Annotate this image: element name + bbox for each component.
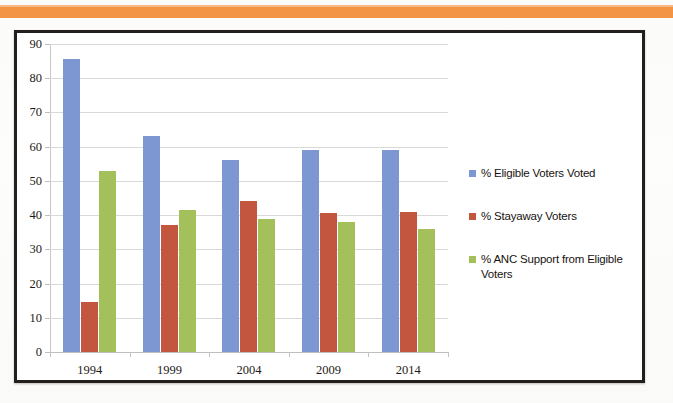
chart-canvas: 0102030405060708090 19941999200420092014…	[17, 33, 642, 380]
orange-banner	[0, 5, 673, 18]
chart-legend: % Eligible Voters Voted% Stayaway Voters…	[469, 166, 635, 310]
bar[interactable]	[400, 212, 417, 352]
bar-group-bars	[368, 44, 448, 352]
y-axis-tick-label: 30	[30, 242, 43, 257]
bar-group: 1994	[50, 44, 130, 352]
banner-highlight	[0, 5, 673, 7]
bar-group: 2014	[368, 44, 448, 352]
x-axis-tick-mark	[209, 352, 210, 357]
y-axis-tick-label: 50	[30, 173, 43, 188]
legend-item-label: % Stayaway Voters	[481, 209, 577, 224]
legend-swatch-icon	[469, 256, 476, 263]
bar[interactable]	[338, 222, 355, 352]
legend-item[interactable]: % Stayaway Voters	[469, 209, 635, 224]
legend-item-label: % ANC Support from Eligible Voters	[481, 252, 635, 282]
y-axis-tick-label: 80	[30, 71, 43, 86]
x-axis-tick-mark	[368, 352, 369, 357]
y-axis-tick-label: 40	[30, 208, 43, 223]
y-axis-tick-label: 10	[30, 310, 43, 325]
bar[interactable]	[99, 171, 116, 352]
gridline	[50, 352, 448, 353]
chart-frame: 0102030405060708090 19941999200420092014…	[14, 30, 645, 383]
x-axis-tick-mark	[130, 352, 131, 357]
bar[interactable]	[63, 59, 80, 352]
y-axis-tick-label: 20	[30, 276, 43, 291]
x-axis-tick-label: 2014	[396, 363, 421, 378]
legend-item[interactable]: % Eligible Voters Voted	[469, 166, 635, 181]
x-axis-tick-label: 1999	[157, 363, 182, 378]
legend-item[interactable]: % ANC Support from Eligible Voters	[469, 252, 635, 282]
bar[interactable]	[258, 219, 275, 352]
bar-group: 1999	[130, 44, 210, 352]
chart-page: 0102030405060708090 19941999200420092014…	[0, 0, 673, 403]
bar[interactable]	[240, 201, 257, 352]
bar[interactable]	[161, 225, 178, 352]
y-axis-tick-label: 0	[36, 345, 42, 360]
bar[interactable]	[81, 302, 98, 352]
bar[interactable]	[179, 210, 196, 352]
bar[interactable]	[302, 150, 319, 352]
bar-group: 2004	[209, 44, 289, 352]
plot-area: 0102030405060708090 19941999200420092014	[50, 44, 448, 352]
legend-item-label: % Eligible Voters Voted	[481, 166, 595, 181]
y-axis-tick-label: 60	[30, 139, 43, 154]
bar-group-bars	[50, 44, 130, 352]
y-axis-tick-label: 90	[30, 37, 43, 52]
x-axis-tick-label: 1994	[77, 363, 102, 378]
bar-group: 2009	[289, 44, 369, 352]
x-axis-tick-label: 2004	[236, 363, 261, 378]
x-axis-tick-label: 2009	[316, 363, 341, 378]
bar-group-bars	[130, 44, 210, 352]
bar[interactable]	[222, 160, 239, 352]
bar[interactable]	[382, 150, 399, 352]
x-axis-tick-mark	[50, 352, 51, 357]
bar[interactable]	[418, 229, 435, 352]
legend-swatch-icon	[469, 213, 476, 220]
bar[interactable]	[143, 136, 160, 352]
x-axis-tick-mark	[448, 352, 449, 357]
y-axis-tick-label: 70	[30, 105, 43, 120]
legend-swatch-icon	[469, 170, 476, 177]
bar-group-bars	[209, 44, 289, 352]
bar[interactable]	[320, 213, 337, 352]
x-axis-tick-mark	[289, 352, 290, 357]
bar-group-bars	[289, 44, 369, 352]
